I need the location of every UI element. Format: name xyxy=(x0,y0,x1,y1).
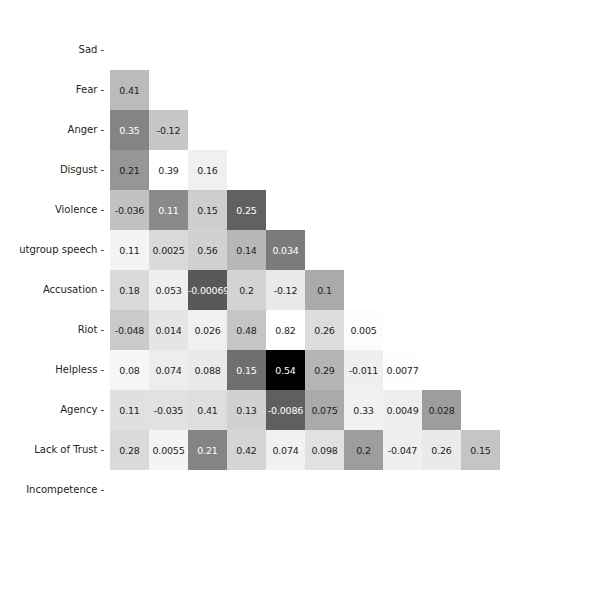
x-axis-tick-labels xyxy=(110,512,578,612)
heatmap-cell: 0.56 xyxy=(188,230,227,270)
heatmap-cell-value: 0.15 xyxy=(188,205,227,216)
colorbar xyxy=(512,30,582,510)
heatmap-cell: 0.075 xyxy=(305,390,344,430)
heatmap-cell: 0.35 xyxy=(110,110,149,150)
y-tick-label-violence: Violence- xyxy=(0,190,106,230)
heatmap-row: 0.41 xyxy=(110,70,149,110)
y-tick-label-riot: Riot- xyxy=(0,310,106,350)
y-tick-label-accusation: Accusation- xyxy=(0,270,106,310)
heatmap-cell: 0.15 xyxy=(188,190,227,230)
heatmap-cell: 0.14 xyxy=(227,230,266,270)
heatmap-cell: 0.15 xyxy=(461,430,500,470)
heatmap-grid: 0.410.35-0.120.210.390.16-0.0360.110.150… xyxy=(110,30,578,510)
heatmap-row: 0.11-0.0350.410.13-0.00860.0750.330.0049… xyxy=(110,390,461,430)
heatmap-cell: 0.2 xyxy=(227,270,266,310)
heatmap-cell-value: 0.48 xyxy=(227,325,266,336)
heatmap-cell: -0.0086 xyxy=(266,390,305,430)
y-tick-label-agency: Agency- xyxy=(0,390,106,430)
heatmap-row: 0.180.053-0.000690.2-0.120.1 xyxy=(110,270,344,310)
heatmap-cell-value: 0.35 xyxy=(110,125,149,136)
heatmap-cell-value: 0.41 xyxy=(110,85,149,96)
heatmap-cell-value: 0.15 xyxy=(461,445,500,456)
heatmap-cell-value: -0.011 xyxy=(344,365,383,376)
heatmap-cell-value: 0.13 xyxy=(227,405,266,416)
heatmap-cell-value: 0.56 xyxy=(188,245,227,256)
heatmap-cell-value: 0.26 xyxy=(422,445,461,456)
heatmap-cell-value: 0.29 xyxy=(305,365,344,376)
heatmap-cell-value: 0.28 xyxy=(110,445,149,456)
heatmap-cell-value: -0.047 xyxy=(383,445,422,456)
y-tick-label-outgroup-speech: utgroup speech- xyxy=(0,230,106,270)
heatmap-cell: 0.11 xyxy=(110,390,149,430)
heatmap-cell: 0.82 xyxy=(266,310,305,350)
heatmap-cell-value: -0.036 xyxy=(110,205,149,216)
heatmap-cell: 0.18 xyxy=(110,270,149,310)
heatmap-cell-value: -0.00069 xyxy=(188,285,227,296)
y-tick-label-sad: Sad- xyxy=(0,30,106,70)
heatmap-cell-value: 0.074 xyxy=(149,365,188,376)
heatmap-cell: 0.005 xyxy=(344,310,383,350)
heatmap-cell-value: -0.048 xyxy=(110,325,149,336)
heatmap-row: 0.210.390.16 xyxy=(110,150,227,190)
heatmap-row: 0.280.00550.210.420.0740.0980.2-0.0470.2… xyxy=(110,430,500,470)
heatmap-cell: 0.0025 xyxy=(149,230,188,270)
heatmap-cell-value: -0.035 xyxy=(149,405,188,416)
heatmap-cell: -0.035 xyxy=(149,390,188,430)
heatmap-cell: 0.54 xyxy=(266,350,305,390)
heatmap-cell-value: 0.42 xyxy=(227,445,266,456)
heatmap-cell: 0.0055 xyxy=(149,430,188,470)
heatmap-cell: -0.12 xyxy=(266,270,305,310)
heatmap-cell: 0.098 xyxy=(305,430,344,470)
heatmap-cell: 0.053 xyxy=(149,270,188,310)
y-axis-tick-labels: Sad-Fear-Anger-Disgust-Violence-utgroup … xyxy=(0,30,106,510)
heatmap-cell-value: 0.0049 xyxy=(383,405,422,416)
heatmap-cell-value: 0.26 xyxy=(305,325,344,336)
heatmap-cell: 0.48 xyxy=(227,310,266,350)
heatmap-cell-value: 0.82 xyxy=(266,325,305,336)
heatmap-row xyxy=(110,30,149,70)
heatmap-cell: 0.088 xyxy=(188,350,227,390)
y-tick-label-incompetence: Incompetence- xyxy=(0,470,106,510)
heatmap-cell: 0.26 xyxy=(422,430,461,470)
heatmap-cell: 0.074 xyxy=(149,350,188,390)
heatmap-row: -0.0480.0140.0260.480.820.260.005 xyxy=(110,310,383,350)
heatmap-cell: 0.034 xyxy=(266,230,305,270)
heatmap-cell: 0.074 xyxy=(266,430,305,470)
correlation-heatmap-figure: Sad-Fear-Anger-Disgust-Violence-utgroup … xyxy=(0,0,590,614)
heatmap-row: -0.0360.110.150.25 xyxy=(110,190,266,230)
heatmap-cell: -0.12 xyxy=(149,110,188,150)
heatmap-cell-value: 0.54 xyxy=(266,365,305,376)
y-tick-label-lack-of-trust: Lack of Trust- xyxy=(0,430,106,470)
heatmap-cell-value: 0.11 xyxy=(149,205,188,216)
heatmap-cell-value: 0.005 xyxy=(344,325,383,336)
heatmap-row: 0.35-0.12 xyxy=(110,110,188,150)
heatmap-cell-value: 0.053 xyxy=(149,285,188,296)
heatmap-cell-value: 0.098 xyxy=(305,445,344,456)
heatmap-cell-value: 0.026 xyxy=(188,325,227,336)
heatmap-cell: 0.28 xyxy=(110,430,149,470)
heatmap-cell-value: 0.014 xyxy=(149,325,188,336)
heatmap-row: 0.110.00250.560.140.034 xyxy=(110,230,305,270)
heatmap-cell-value: 0.25 xyxy=(227,205,266,216)
heatmap-cell: 0.08 xyxy=(110,350,149,390)
heatmap-cell-value: 0.2 xyxy=(227,285,266,296)
heatmap-cell: 0.11 xyxy=(110,230,149,270)
y-tick-label-fear: Fear- xyxy=(0,70,106,110)
heatmap-cell: -0.00069 xyxy=(188,270,227,310)
heatmap-cell: 0.21 xyxy=(110,150,149,190)
heatmap-cell-value: 0.2 xyxy=(344,445,383,456)
heatmap-cell: -0.048 xyxy=(110,310,149,350)
heatmap-cell: -0.036 xyxy=(110,190,149,230)
heatmap-cell: 0.21 xyxy=(188,430,227,470)
y-tick-label-anger: Anger- xyxy=(0,110,106,150)
heatmap-cell-value: 0.11 xyxy=(110,405,149,416)
heatmap-cell: -0.011 xyxy=(344,350,383,390)
heatmap-cell-value: 0.14 xyxy=(227,245,266,256)
heatmap-cell: 0.11 xyxy=(149,190,188,230)
heatmap-cell: 0.0049 xyxy=(383,390,422,430)
heatmap-cell-value: 0.0055 xyxy=(149,445,188,456)
heatmap-cell: -0.047 xyxy=(383,430,422,470)
heatmap-cell-value: 0.1 xyxy=(305,285,344,296)
heatmap-cell: 0.25 xyxy=(227,190,266,230)
heatmap-cell-value: 0.028 xyxy=(422,405,461,416)
